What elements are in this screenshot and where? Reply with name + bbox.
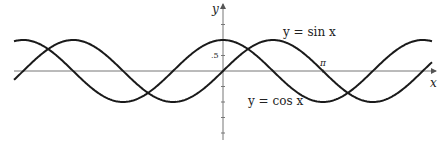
y-tick-label: .5 xyxy=(211,51,219,60)
cos-label: y = cos x xyxy=(247,94,303,108)
x-tick-label-pi: π xyxy=(319,58,327,68)
x-axis-label: x xyxy=(430,76,437,90)
sin-label: y = sin x xyxy=(282,25,336,39)
sin-cos-chart: y x .5 π y = sin x y = cos x xyxy=(0,0,445,145)
y-axis-label: y xyxy=(211,2,219,16)
